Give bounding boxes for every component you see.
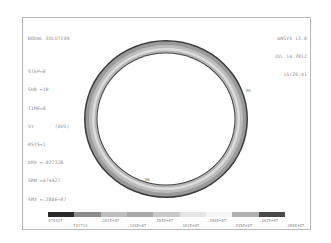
- legend-label: .128E+07: [127, 223, 146, 228]
- max-marker: MX: [246, 88, 251, 93]
- legend-band-5: [153, 212, 179, 217]
- legend-label: 474427: [48, 218, 62, 223]
- legend-label: .155E+07: [154, 218, 173, 223]
- ring-contour-plot: [0, 0, 331, 243]
- legend-label: .288E+07: [285, 223, 304, 228]
- legend-label: .208E+07: [207, 218, 226, 223]
- legend-band-4: [127, 212, 153, 217]
- legend-label: 741713: [73, 223, 87, 228]
- legend-band-9: [259, 212, 285, 217]
- legend-band-1: [48, 212, 74, 217]
- legend-band-2: [74, 212, 100, 217]
- legend-label: .101E+07: [100, 218, 119, 223]
- legend-band-3: [101, 212, 127, 217]
- legend-label: .235E+07: [233, 223, 252, 228]
- legend-band-7: [206, 212, 232, 217]
- legend-label: .182E+07: [180, 223, 199, 228]
- legend-band-6: [180, 212, 206, 217]
- color-legend-bar: [48, 212, 285, 217]
- min-marker: MN: [145, 177, 150, 182]
- legend-label: .262E+07: [259, 218, 278, 223]
- legend-band-8: [232, 212, 258, 217]
